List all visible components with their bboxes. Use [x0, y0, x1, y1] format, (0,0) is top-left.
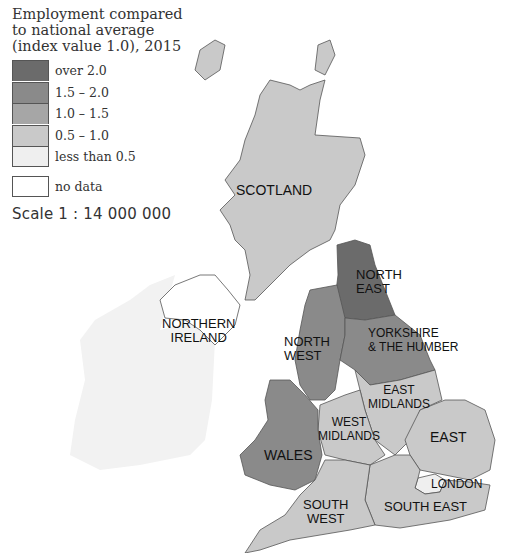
legend-item-1-0-1-5: 1.0 – 1.5: [12, 103, 212, 125]
legend-title-line-1: Employment compared: [12, 6, 212, 22]
label-west-midlands: WESTMIDLANDS: [318, 415, 380, 443]
legend-item-less-than-0-5: less than 0.5: [12, 146, 212, 168]
label-east-midlands: EASTMIDLANDS: [368, 383, 430, 411]
legend-item-over-2: over 2.0: [12, 60, 212, 82]
legend-item-0-5-1-0: 0.5 – 1.0: [12, 125, 212, 147]
label-wales: WALES: [264, 448, 313, 462]
legend-items: over 2.0 1.5 – 2.0 1.0 – 1.5 0.5 – 1.0 l…: [12, 60, 212, 168]
label-scotland: SCOTLAND: [236, 183, 312, 197]
legend-label: no data: [55, 179, 102, 194]
legend-swatch: [12, 82, 49, 103]
label-north-west: NORTHWEST: [284, 335, 330, 363]
map-scale: Scale 1 : 14 000 000: [12, 205, 212, 223]
legend-swatch: [12, 125, 49, 146]
legend-item-1-5-2-0: 1.5 – 2.0: [12, 82, 212, 104]
label-yorkshire: YORKSHIRE& THE HUMBER: [368, 326, 458, 354]
label-east: EAST: [430, 430, 467, 444]
legend-label: 1.0 – 1.5: [55, 106, 109, 121]
legend-swatch: [12, 176, 49, 197]
legend-title-line-2: to national average: [12, 22, 212, 38]
legend-item-no-data: no data: [12, 176, 212, 197]
legend-swatch: [12, 146, 49, 167]
label-south-west: SOUTHWEST: [303, 498, 349, 526]
legend-label: 1.5 – 2.0: [55, 85, 109, 100]
label-south-east: SOUTH EAST: [384, 500, 467, 514]
label-north-east: NORTHEAST: [356, 268, 402, 296]
label-northern-ireland: NORTHERNIRELAND: [162, 317, 235, 345]
legend-swatch: [12, 60, 49, 81]
map-legend: Employment compared to national average …: [12, 6, 212, 223]
label-london: LONDON: [431, 477, 482, 491]
region-shetland: [315, 40, 335, 75]
legend-label: over 2.0: [55, 63, 107, 78]
legend-label: less than 0.5: [55, 149, 136, 164]
legend-swatch: [12, 103, 49, 124]
legend-label: 0.5 – 1.0: [55, 128, 109, 143]
legend-title-line-3: (index value 1.0), 2015: [12, 38, 212, 54]
legend-title: Employment compared to national average …: [12, 6, 212, 54]
